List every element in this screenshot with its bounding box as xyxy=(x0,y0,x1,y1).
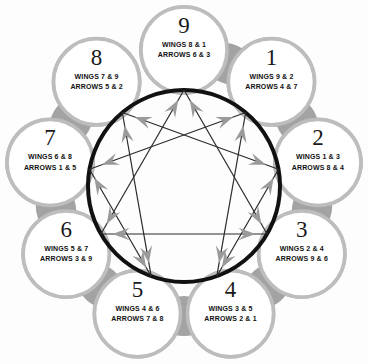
node-2[interactable]: 2WINGS 1 & 3ARROWS 8 & 4 xyxy=(275,119,361,205)
arrow-marker xyxy=(184,97,203,118)
node-wings-3: WINGS 2 & 4 xyxy=(280,244,324,254)
arrow-marker xyxy=(164,97,183,118)
node-5[interactable]: 5WINGS 4 & 6ARROWS 7 & 8 xyxy=(94,271,180,357)
arrow-marker xyxy=(101,206,120,227)
node-wings-2: WINGS 1 & 3 xyxy=(296,152,340,162)
arrow-marker xyxy=(215,111,235,128)
node-1[interactable]: 1WINGS 9 & 2ARROWS 4 & 7 xyxy=(228,39,314,125)
enneagram-diagram: 9WINGS 8 & 1ARROWS 6 & 31WINGS 9 & 2ARRO… xyxy=(0,0,369,364)
node-arrows-9: ARROWS 6 & 3 xyxy=(158,50,210,60)
node-arrows-5: ARROWS 7 & 8 xyxy=(111,314,163,324)
node-number-4: 4 xyxy=(225,278,237,301)
node-number-3: 3 xyxy=(296,218,308,241)
node-arrows-3: ARROWS 9 & 6 xyxy=(276,254,328,264)
arrow-marker xyxy=(118,125,133,144)
node-arrows-8: ARROWS 5 & 2 xyxy=(70,82,122,92)
node-number-7: 7 xyxy=(44,126,56,149)
arrow-markers-layer xyxy=(89,97,279,271)
node-wings-8: WINGS 7 & 9 xyxy=(75,72,119,82)
arrow-marker xyxy=(248,153,268,170)
node-wings-9: WINGS 8 & 1 xyxy=(162,40,206,50)
node-arrows-7: ARROWS 1 & 5 xyxy=(24,163,76,173)
node-wings-6: WINGS 5 & 7 xyxy=(44,244,88,254)
arrow-marker xyxy=(100,153,120,170)
node-number-5: 5 xyxy=(132,278,144,301)
arrow-marker xyxy=(234,125,249,144)
node-wings-1: WINGS 9 & 2 xyxy=(249,72,293,82)
node-arrows-4: ARROWS 2 & 1 xyxy=(204,314,256,324)
node-number-2: 2 xyxy=(312,126,324,149)
node-arrows-1: ARROWS 4 & 7 xyxy=(245,82,297,92)
node-number-9: 9 xyxy=(178,14,190,37)
node-wings-5: WINGS 4 & 6 xyxy=(115,304,159,314)
node-arrows-6: ARROWS 3 & 9 xyxy=(40,254,92,264)
node-8[interactable]: 8WINGS 7 & 9ARROWS 5 & 2 xyxy=(54,39,140,125)
node-number-8: 8 xyxy=(91,46,103,69)
node-7[interactable]: 7WINGS 6 & 8ARROWS 1 & 5 xyxy=(7,119,93,205)
arrow-marker xyxy=(133,111,153,128)
node-wings-7: WINGS 6 & 8 xyxy=(28,152,72,162)
node-3[interactable]: 3WINGS 2 & 4ARROWS 9 & 6 xyxy=(259,211,345,297)
node-number-1: 1 xyxy=(266,46,278,69)
node-arrows-2: ARROWS 8 & 4 xyxy=(292,163,344,173)
node-6[interactable]: 6WINGS 5 & 7ARROWS 3 & 9 xyxy=(23,211,109,297)
node-number-6: 6 xyxy=(60,218,72,241)
node-9[interactable]: 9WINGS 8 & 1ARROWS 6 & 3 xyxy=(141,7,227,93)
node-4[interactable]: 4WINGS 3 & 5ARROWS 2 & 1 xyxy=(188,271,274,357)
arrow-marker xyxy=(247,206,266,227)
node-wings-4: WINGS 3 & 5 xyxy=(208,304,252,314)
